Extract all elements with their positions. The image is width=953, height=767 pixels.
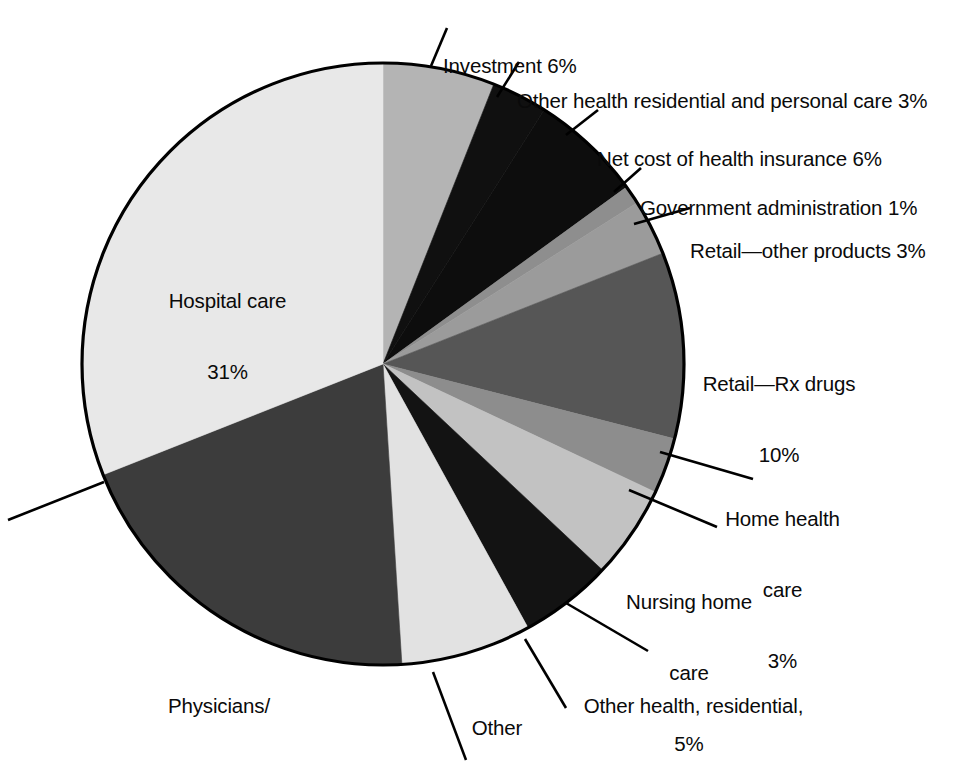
nursing-home-care-line1: Nursing home bbox=[613, 590, 765, 614]
hospital-care-value: 31% bbox=[135, 360, 320, 384]
slice-label-physicians-clinical-services: Physicians/ clinical services 20% bbox=[110, 646, 328, 767]
retail-rx-drugs-name: Retail—Rx drugs bbox=[684, 372, 874, 396]
slice-label-other-professional-services: Other professional services 7% bbox=[432, 668, 562, 767]
other-professional-services-line1: Other bbox=[432, 716, 562, 740]
retail-other-products-text: Retail—other products 3% bbox=[690, 239, 926, 263]
slice-label-hospital-care: Hospital care 31% bbox=[135, 241, 320, 431]
pie-chart-figure: Hospital care 31% Investment 6% Other he… bbox=[0, 0, 953, 767]
slice-label-other-health-residential-5: Other health, residential, and personal … bbox=[551, 646, 836, 767]
hospital-care-name: Hospital care bbox=[135, 289, 320, 313]
home-health-care-line1: Home health bbox=[715, 507, 850, 531]
physicians-line1: Physicians/ bbox=[110, 694, 328, 718]
leader-line-hospital-physicians-boundary bbox=[8, 482, 104, 520]
slice-label-retail-other-products: Retail—other products 3% bbox=[690, 191, 926, 310]
other-health-residential-5-line1: Other health, residential, bbox=[551, 694, 836, 718]
